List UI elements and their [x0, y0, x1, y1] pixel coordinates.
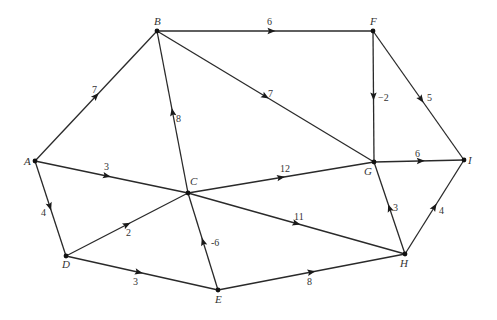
node-dot [372, 160, 377, 165]
edge-line [35, 161, 188, 193]
edge-H-I: 4 [405, 160, 464, 254]
edge-weight-label: 2 [126, 227, 131, 238]
edge-weight-label: 5 [427, 92, 432, 103]
edge-weight-label: 7 [92, 84, 97, 95]
node-dot [462, 158, 467, 163]
weighted-directed-graph: 734678121123-68−25634 ABCDEFGHI [0, 0, 497, 320]
edge-weight-label: 6 [415, 148, 420, 159]
edge-C-G: 12 [188, 162, 374, 193]
edge-D-E: 3 [66, 256, 218, 290]
node-label: E [214, 293, 222, 305]
edges-layer: 734678121123-68−25634 [35, 16, 464, 290]
node-label: C [190, 175, 198, 187]
edge-A-D: 4 [35, 161, 66, 256]
edge-H-G: 3 [374, 162, 405, 254]
edge-weight-label: 3 [393, 202, 398, 213]
arrowhead-icon [199, 237, 207, 247]
node-dot [403, 252, 408, 257]
edge-weight-label: 3 [104, 161, 109, 172]
edge-weight-label: −2 [378, 92, 389, 103]
edge-weight-label: 8 [176, 113, 181, 124]
edge-weight-label: 7 [268, 88, 273, 99]
edge-weight-label: 4 [41, 207, 46, 218]
edge-E-C: -6 [188, 193, 219, 290]
edge-E-H: 8 [218, 254, 405, 290]
node-dot [186, 191, 191, 196]
edge-G-I: 6 [374, 148, 464, 164]
edge-weight-label: 4 [439, 205, 444, 216]
edge-weight-label: -6 [211, 237, 219, 248]
edge-B-G: 7 [157, 31, 374, 162]
edge-C-H: 11 [188, 193, 405, 254]
node-dot [216, 288, 221, 293]
edge-C-B: 8 [157, 31, 188, 193]
node-I: I [462, 154, 473, 166]
node-A: A [23, 155, 37, 167]
edge-B-F: 6 [157, 16, 373, 34]
arrowhead-icon [46, 202, 55, 212]
arrowhead-icon [102, 172, 111, 180]
node-label: G [364, 165, 372, 177]
node-label: B [154, 15, 161, 27]
edge-weight-label: 6 [267, 16, 272, 27]
edge-A-C: 3 [35, 161, 188, 193]
node-label: F [369, 15, 377, 27]
arrowhead-icon [430, 202, 440, 212]
node-label: D [61, 258, 70, 270]
node-label: H [399, 257, 409, 269]
node-label: A [23, 155, 31, 167]
node-dot [33, 159, 38, 164]
edge-D-C: 2 [66, 193, 188, 256]
edge-weight-label: 11 [294, 211, 304, 222]
node-E: E [214, 288, 222, 305]
node-label: I [467, 154, 473, 166]
edge-weight-label: 3 [133, 276, 138, 287]
edge-weight-label: 8 [307, 276, 312, 287]
node-dot [155, 29, 160, 34]
edge-A-B: 7 [35, 31, 157, 161]
edge-F-G: −2 [370, 31, 388, 162]
arrowhead-icon [416, 94, 426, 104]
edge-weight-label: 12 [280, 163, 290, 174]
node-dot [371, 29, 376, 34]
